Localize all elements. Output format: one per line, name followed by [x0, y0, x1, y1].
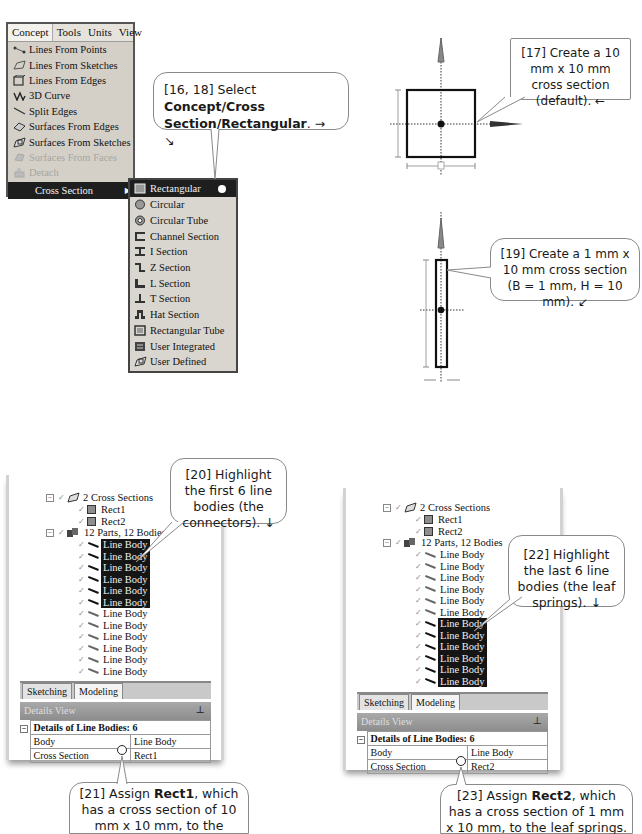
- collapse-icon[interactable]: −: [46, 529, 54, 537]
- tree-line-body[interactable]: ✓Line Body: [415, 653, 487, 665]
- line-body-icon: [87, 666, 101, 676]
- submenu-item-z-section[interactable]: Z Section: [130, 260, 236, 276]
- detail-value-cross-section[interactable]: Rect2: [468, 760, 548, 774]
- submenu-item-circular[interactable]: Circular: [130, 197, 236, 213]
- line-body-icon: [87, 620, 101, 630]
- submenu-item-circular-tube[interactable]: Circular Tube: [130, 213, 236, 229]
- line-body-icon: [424, 619, 438, 629]
- detail-value-cross-section[interactable]: Rect1: [131, 749, 211, 763]
- channel-section-icon: [133, 230, 147, 242]
- tree-line-body[interactable]: ✓Line Body: [78, 654, 150, 666]
- menu-concept[interactable]: Concept: [8, 24, 53, 41]
- menu-item-surfaces-from-edges[interactable]: Surfaces From Edges: [8, 119, 133, 134]
- line-body-icon: [87, 540, 101, 550]
- tree-line-body[interactable]: ✓Line Body: [78, 608, 150, 620]
- hat-section-icon: [133, 309, 147, 321]
- parts-icon: [404, 538, 416, 548]
- menu-units[interactable]: Units: [84, 24, 115, 41]
- submenu-item-hat-section[interactable]: Hat Section: [130, 307, 236, 323]
- tree-line-body[interactable]: ✓Line Body: [415, 549, 487, 561]
- submenu-item-rectangular-tube[interactable]: Rectangular Tube: [130, 323, 236, 339]
- menubar: Concept Tools Units View: [8, 24, 133, 42]
- callout-23-pointer: [451, 766, 471, 786]
- line-body-icon: [87, 609, 101, 619]
- line-body-icon: [424, 653, 438, 663]
- menu-view[interactable]: View: [115, 24, 145, 41]
- submenu-item-channel-section[interactable]: Channel Section: [130, 228, 236, 244]
- tree-line-body[interactable]: ✓Line Body: [78, 585, 150, 597]
- menu-item-lines-from-sketches[interactable]: Lines From Sketches: [8, 57, 133, 72]
- line-body-icon: [87, 632, 101, 642]
- tab-bar-right: Sketching Modeling: [357, 692, 548, 710]
- click-marker: [117, 745, 127, 755]
- lines-from-edges-icon: [12, 74, 26, 86]
- tree-line-body[interactable]: ✓Line Body: [415, 561, 487, 573]
- submenu-item-t-section[interactable]: T Section: [130, 291, 236, 307]
- tree-line-body[interactable]: ✓Line Body: [415, 641, 487, 653]
- tree-line-body[interactable]: ✓Line Body: [415, 584, 487, 596]
- collapse-icon[interactable]: −: [357, 736, 365, 744]
- line-body-icon: [87, 586, 101, 596]
- line-body-icon: [87, 574, 101, 584]
- tree-node-rect1[interactable]: ✓ Rect1: [415, 514, 465, 526]
- tab-sketching[interactable]: Sketching: [359, 694, 409, 710]
- tree-line-body[interactable]: ✓Line Body: [78, 620, 150, 632]
- details-view-header-right: Details View ⊥: [357, 713, 548, 731]
- menu-tools[interactable]: Tools: [53, 24, 84, 41]
- tree-line-body[interactable]: ✓Line Body: [78, 631, 150, 643]
- tab-modeling[interactable]: Modeling: [74, 683, 123, 699]
- tree-node-rect2[interactable]: ✓ Rect2: [78, 516, 128, 528]
- collapse-icon[interactable]: −: [383, 504, 391, 512]
- line-body-icon: [424, 573, 438, 583]
- tree-line-body[interactable]: ✓Line Body: [78, 643, 150, 655]
- detail-value-body[interactable]: Line Body: [131, 735, 211, 749]
- rectangular-tube-icon: [133, 324, 147, 336]
- callout-17-pointer: [475, 96, 535, 126]
- submenu-item-user-defined[interactable]: User Defined: [130, 354, 236, 370]
- submenu-item-i-section[interactable]: I Section: [130, 244, 236, 260]
- tree-line-body[interactable]: ✓Line Body: [78, 597, 150, 609]
- tree-node-parts[interactable]: − ✓ 12 Parts, 12 Bodies: [383, 537, 505, 549]
- detail-value-body[interactable]: Line Body: [468, 746, 548, 760]
- tree-line-body[interactable]: ✓Line Body: [78, 574, 150, 586]
- line-body-icon: [424, 642, 438, 652]
- parts-icon: [67, 528, 79, 538]
- collapse-icon[interactable]: −: [46, 494, 54, 502]
- tree-line-body[interactable]: ✓Line Body: [78, 666, 150, 678]
- callout-19: [19] Create a 1 mm x 10 mm cross section…: [490, 238, 640, 301]
- submenu-item-l-section[interactable]: L Section: [130, 275, 236, 291]
- pin-icon[interactable]: ⊥: [533, 715, 542, 726]
- z-section-icon: [133, 262, 147, 274]
- menu-item-surfaces-from-sketches[interactable]: Surfaces From Sketches: [8, 134, 133, 149]
- tab-bar-left: Sketching Modeling: [20, 681, 211, 699]
- menu-item-cross-section[interactable]: Cross Section ▶: [8, 182, 133, 199]
- tree-node-rect1[interactable]: ✓ Rect1: [78, 504, 128, 516]
- tree-node-cross-sections[interactable]: − ✓ 2 Cross Sections: [383, 502, 492, 514]
- menu-item-lines-from-points[interactable]: Lines From Points: [8, 42, 133, 57]
- tree-line-body[interactable]: ✓Line Body: [415, 664, 487, 676]
- menu-item-3d-curve[interactable]: 3D Curve: [8, 88, 133, 103]
- surfaces-from-edges-icon: [12, 121, 26, 133]
- menu-item-split-edges[interactable]: Split Edges: [8, 104, 133, 119]
- cross-section-submenu: Rectangular Circular Circular Tube Chann…: [128, 178, 238, 373]
- tree-node-cross-sections[interactable]: − ✓ 2 Cross Sections: [46, 492, 155, 504]
- callout-19-pointer: [446, 266, 494, 282]
- collapse-icon[interactable]: −: [383, 539, 391, 547]
- cross-sections-icon: [67, 492, 81, 503]
- tab-sketching[interactable]: Sketching: [22, 683, 72, 699]
- line-body-icon: [424, 665, 438, 675]
- tree-line-body[interactable]: ✓Line Body: [415, 572, 487, 584]
- menu-item-lines-from-edges[interactable]: Lines From Edges: [8, 73, 133, 88]
- tree-line-body[interactable]: ✓Line Body: [415, 676, 487, 688]
- l-section-icon: [133, 277, 147, 289]
- line-body-icon: [424, 584, 438, 594]
- surfaces-from-faces-icon: [12, 151, 26, 163]
- split-edges-icon: [12, 105, 26, 117]
- tab-modeling[interactable]: Modeling: [411, 694, 460, 710]
- tree-node-rect2[interactable]: ✓ Rect2: [415, 526, 465, 538]
- collapse-icon[interactable]: −: [20, 725, 28, 733]
- submenu-item-user-integrated[interactable]: User Integrated: [130, 338, 236, 354]
- pin-icon[interactable]: ⊥: [196, 704, 205, 715]
- submenu-item-rectangular[interactable]: Rectangular: [130, 180, 236, 197]
- rect-section-icon: [87, 517, 96, 526]
